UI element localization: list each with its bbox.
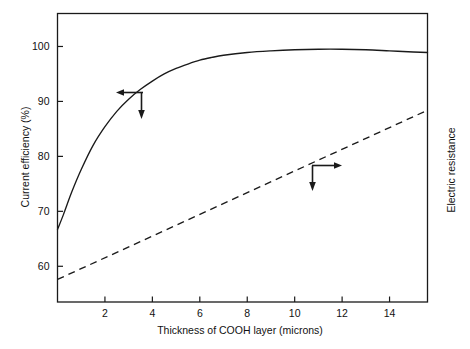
y-tick-label: 90 [38,95,50,107]
y-axis-right-title: Electric resistance [445,127,457,212]
y-tick-label: 100 [32,40,50,52]
x-tick-label: 4 [149,307,155,319]
x-tick-label: 2 [102,307,108,319]
x-tick-label: 8 [244,307,250,319]
chart-background [0,0,470,349]
x-tick-label: 6 [197,307,203,319]
y-tick-label: 60 [38,260,50,272]
y-tick-label: 80 [38,150,50,162]
x-tick-label: 12 [336,307,348,319]
x-tick-label: 14 [384,307,396,319]
y-tick-label: 70 [38,205,50,217]
y-axis-left-title: Current efficiency (%) [19,107,31,208]
x-axis-title: Thickness of COOH layer (microns) [157,324,323,336]
chart-svg: 60708090100 2468101214 Current efficienc… [0,0,470,349]
chart-figure: 60708090100 2468101214 Current efficienc… [0,0,470,349]
x-tick-label: 10 [289,307,301,319]
